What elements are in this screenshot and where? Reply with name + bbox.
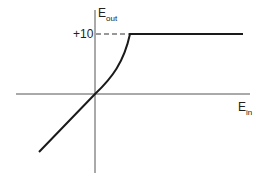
transfer-curve — [39, 34, 243, 152]
diagram-canvas — [0, 0, 267, 184]
saturation-level-label: +10 — [73, 28, 93, 40]
y-axis-label-sub: out — [106, 14, 117, 23]
x-axis-label-sub: in — [246, 108, 252, 117]
y-axis-label-main: E — [98, 6, 106, 20]
x-axis-label: Ein — [238, 101, 252, 113]
y-axis-label: Eout — [98, 7, 117, 19]
x-axis-label-main: E — [238, 100, 246, 114]
